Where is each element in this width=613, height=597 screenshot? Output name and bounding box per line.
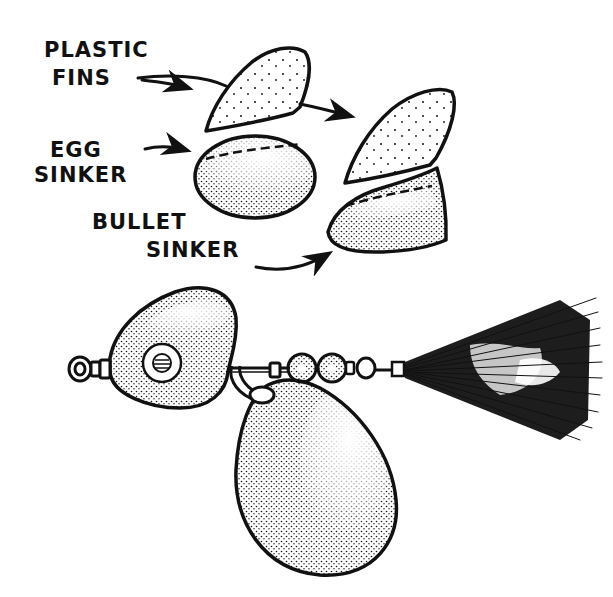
- arrow-plastic-fins: [138, 76, 226, 88]
- lure-head: [110, 288, 236, 408]
- illustration-canvas: PLASTIC FINS EGG SINKER BULLET SINKER: [0, 0, 613, 597]
- egg-sinker: [195, 136, 315, 218]
- arrow-egg-sinker: [145, 146, 186, 150]
- plastic-fin: [206, 48, 309, 131]
- beads: [288, 354, 404, 382]
- arrow-bullet-sinker: [256, 254, 328, 269]
- swivel-eye: [69, 357, 110, 381]
- arrow-fin-to-bullet: [300, 104, 350, 116]
- drawing-svg: [0, 0, 613, 597]
- spinner-blade: [236, 380, 397, 575]
- tail-tuft: [405, 298, 602, 440]
